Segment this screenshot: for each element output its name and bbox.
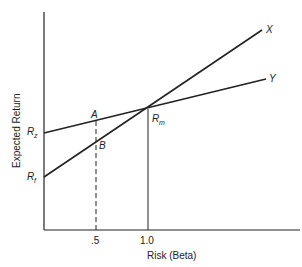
line-y: [44, 79, 266, 133]
line-x-label: X: [265, 24, 273, 35]
line-x: [44, 30, 262, 177]
point-a-label: A: [90, 109, 98, 120]
rz-sub: z: [33, 132, 38, 139]
y-axis-title: Expected Return: [11, 94, 22, 169]
tick-one: 1.0: [140, 235, 154, 246]
x-axis-title: Risk (Beta): [147, 250, 196, 261]
rm-sub: m: [159, 119, 165, 126]
rf-sub: f: [34, 177, 37, 184]
point-b-label: B: [99, 140, 106, 151]
tick-half: .5: [91, 235, 100, 246]
security-market-line-diagram: X Y R z R f R m A B .5 1.0 Risk (Beta) E…: [0, 0, 302, 267]
line-y-label: Y: [269, 73, 277, 84]
